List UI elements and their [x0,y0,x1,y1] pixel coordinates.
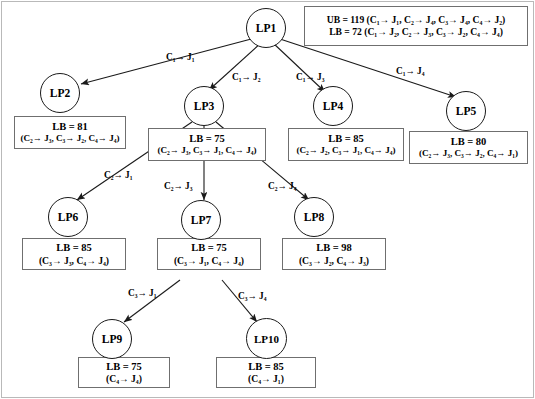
edge-label-lp3-lp6: C₂→ J₁ [104,170,133,180]
infobox-lp9-line2: (C₄→ J₄) [106,373,142,385]
infobox-lp8: LB = 98 (C₃→ J₂, C₄→ J₃) [282,238,386,270]
diagram-canvas: LP1 LP2 LP3 LP4 LP5 LP6 LP7 LP8 LP9 LP10… [0,0,535,399]
infobox-lp2-line1: LB = 81 [52,120,88,133]
edge-lp1-lp5 [280,39,456,97]
infobox-lp1: UB = 119 (C₁→ J₁, C₂→ J₄, C₃→ J₄, C₄→ J₂… [304,6,528,46]
infobox-lp1-line1: UB = 119 (C₁→ J₁, C₂→ J₄, C₃→ J₄, C₄→ J₂… [327,14,506,26]
node-lp4[interactable]: LP4 [313,86,353,126]
edge-lp7-lp9 [124,280,180,322]
edge-lp7-lp10 [222,280,257,322]
edge-lp1-lp4 [272,42,325,92]
edge-label-lp7-lp10: C₃→ J₄ [238,291,267,301]
node-lp7[interactable]: LP7 [181,200,221,240]
infobox-lp7: LB = 75 (C₃→ J₁, C₄→ J₄) [157,238,261,270]
infobox-lp2: LB = 81 (C₂→ J₃, C₃→ J₂, C₄→ J₄) [14,116,126,149]
infobox-lp9-line1: LB = 75 [106,360,142,373]
infobox-lp1-line2: LB = 72 (C₁→ J₂, C₂→ J₃, C₃→ J₂, C₄→ J₄) [329,26,503,38]
edge-label-lp3-lp7: C₂→ J₃ [164,181,193,191]
infobox-lp3-line2: (C₂→ J₃, C₃→ J₁, C₄→ J₄) [158,145,257,156]
infobox-lp6-line2: (C₃→ J₃, C₄→ J₄) [39,255,109,267]
edge-label-lp1-lp4: C₁→ J₃ [296,72,325,82]
infobox-lp10-line1: LB = 85 [248,360,284,373]
infobox-lp7-line2: (C₃→ J₁, C₄→ J₄) [174,255,244,267]
node-lp2-label: LP2 [50,87,70,99]
infobox-lp5-line2: (C₂→ J₃, C₃→ J₂, C₄→ J₁) [419,148,518,159]
infobox-lp4-line1: LB = 85 [328,132,364,145]
node-lp5-label: LP5 [456,105,476,117]
infobox-lp4-line2: (C₂→ J₂, C₃→ J₁, C₄→ J₄) [297,145,396,156]
infobox-lp10: LB = 85 (C₄→ J₁) [216,357,316,388]
edge-label-lp1-lp2: C₁→ J₁ [166,52,195,62]
node-lp3[interactable]: LP3 [184,86,224,126]
infobox-lp8-line2: (C₃→ J₂, C₄→ J₃) [299,255,369,267]
node-lp5[interactable]: LP5 [446,91,486,131]
node-lp6[interactable]: LP6 [48,197,88,237]
infobox-lp6: LB = 85 (C₃→ J₃, C₄→ J₄) [22,238,126,270]
edge-label-lp1-lp5: C₁→ J₄ [396,66,425,76]
node-lp3-label: LP3 [194,100,214,112]
node-lp1-label: LP1 [256,22,276,34]
node-lp4-label: LP4 [323,100,343,112]
edge-label-lp3-lp8: C₂→ J₄ [268,181,297,191]
infobox-lp6-line1: LB = 85 [56,241,92,254]
node-lp8-label: LP8 [304,211,324,223]
node-lp9-label: LP9 [102,333,122,345]
infobox-lp2-line2: (C₂→ J₃, C₃→ J₂, C₄→ J₄) [21,133,120,144]
infobox-lp3: LB = 75 (C₂→ J₃, C₃→ J₁, C₄→ J₄) [148,128,266,161]
node-lp10-label: LP10 [254,333,279,345]
node-lp10[interactable]: LP10 [246,318,287,359]
edge-label-lp7-lp9: C₃→ J₁ [128,288,157,298]
node-lp6-label: LP6 [58,211,78,223]
node-lp7-label: LP7 [191,214,211,226]
infobox-lp4: LB = 85 (C₂→ J₂, C₃→ J₁, C₄→ J₄) [288,128,404,161]
node-lp1[interactable]: LP1 [246,8,286,48]
infobox-lp3-line1: LB = 75 [189,132,225,145]
edge-label-lp1-lp3: C₁→ J₂ [232,72,261,82]
node-lp8[interactable]: LP8 [294,197,334,237]
edge-lp1-lp3 [209,42,262,90]
infobox-lp7-line1: LB = 75 [191,241,227,254]
node-lp2[interactable]: LP2 [40,73,80,113]
infobox-lp5-line1: LB = 80 [451,135,487,148]
infobox-lp8-line1: LB = 98 [316,241,352,254]
node-lp9[interactable]: LP9 [92,319,132,359]
infobox-lp9: LB = 75 (C₄→ J₄) [78,357,170,388]
infobox-lp5: LB = 80 (C₂→ J₃, C₃→ J₂, C₄→ J₁) [409,131,528,164]
infobox-lp10-line2: (C₄→ J₁) [248,373,284,385]
